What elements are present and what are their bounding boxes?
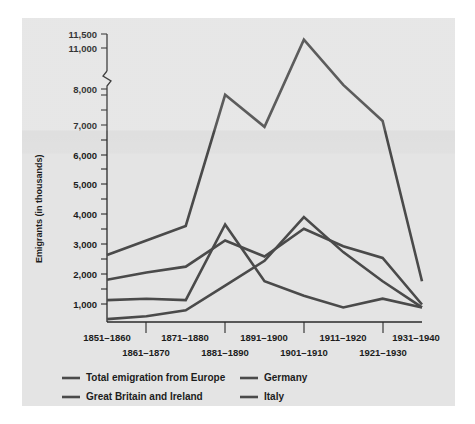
x-tick-label: 1871–1880 — [161, 332, 209, 343]
legend-label-gb: Great Britain and Ireland — [86, 391, 203, 402]
y-tick-label: 8,000 — [73, 84, 97, 95]
y-tick-label: 6,000 — [73, 150, 97, 161]
legend-label-italy: Italy — [264, 391, 284, 402]
legend-label-germany: Germany — [264, 372, 308, 383]
y-tick-label: 2,000 — [73, 269, 97, 280]
series-group — [107, 40, 422, 319]
x-tick-label: 1911–1920 — [319, 332, 366, 343]
y-axis-title: Emigrants (in thousands) — [34, 154, 44, 263]
x-tick-label: 1851–1860 — [83, 332, 131, 343]
series-line-gb — [107, 229, 422, 305]
x-tick-label: 1921–1930 — [359, 347, 407, 358]
y-tick-label: 5,000 — [73, 179, 97, 190]
series-line-total — [107, 40, 422, 282]
line-chart: Emigrants (in thousands) — [22, 18, 455, 406]
y-tick-label: 3,000 — [73, 239, 97, 250]
chart-legend: Total emigration from Europe Great Brita… — [62, 372, 308, 402]
y-tick-label: 4,000 — [73, 209, 97, 220]
y-tick-label: 1,000 — [73, 299, 97, 310]
chart-figure: Emigrants (in thousands) — [22, 18, 455, 406]
x-tick-label: 1891–1900 — [240, 332, 288, 343]
x-tick-label: 1901–1910 — [280, 347, 328, 358]
y-tick-label: 7,000 — [73, 120, 97, 131]
legend-label-total: Total emigration from Europe — [86, 372, 226, 383]
x-tick-label: 1881–1890 — [201, 347, 249, 358]
x-tick-label: 1861–1870 — [122, 347, 170, 358]
series-line-italy — [107, 217, 422, 319]
y-tick-label: 11,500 — [68, 29, 97, 40]
x-tick-label: 1931–1940 — [392, 332, 440, 343]
y-tick-label: 11,000 — [68, 43, 97, 54]
